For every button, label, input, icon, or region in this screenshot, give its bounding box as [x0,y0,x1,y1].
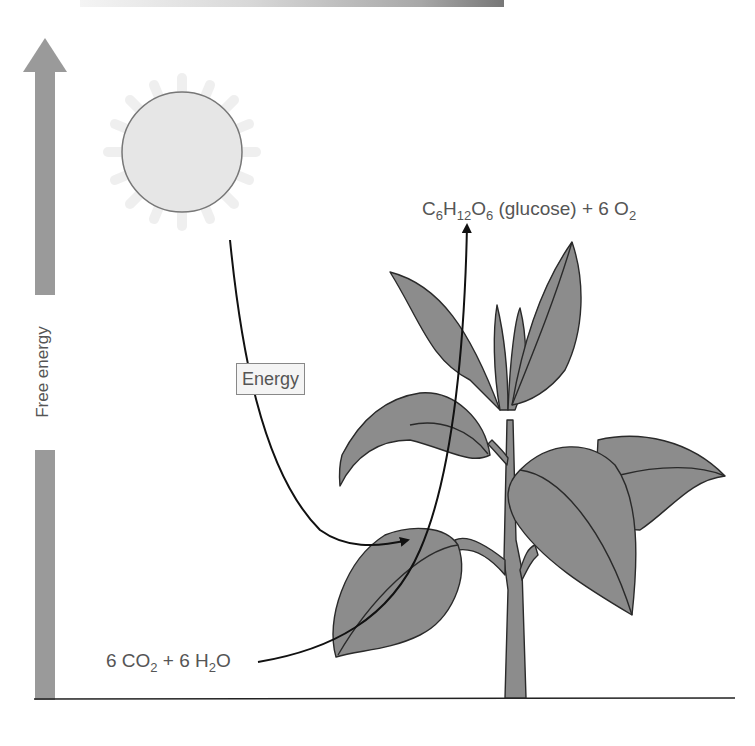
leaf-mid-left [340,393,491,486]
reactant-co2: 6 CO [106,650,150,671]
product-glucose-o2: (glucose) + 6 O [493,198,629,219]
product-h: H [443,198,457,219]
products-formula: C6H12O6 (glucose) + 6 O2 [422,198,636,220]
plant-illustration [333,242,725,698]
reactant-h2o: + 6 H [158,650,209,671]
lower-left-branch [455,538,505,575]
energy-label-box: Energy [236,363,305,395]
mid-left-branch [488,440,508,465]
diagram-canvas [0,0,755,746]
leaf-lower-left [333,528,462,657]
product-c: C [422,198,436,219]
subscript: 2 [629,208,636,223]
leaf-top-left [390,272,500,410]
product-o: O [471,198,486,219]
ground-line [34,698,735,699]
sun-icon [108,78,256,226]
reactants-formula: 6 CO2 + 6 H2O [106,650,231,672]
subscript: 6 [436,208,443,223]
subscript: 2 [150,660,157,675]
free-energy-axis-label: Free energy [33,326,53,418]
reactant-o: O [216,650,231,671]
subscript: 12 [457,208,471,223]
bud-left [494,305,508,410]
subscript: 2 [209,660,216,675]
energy-label: Energy [242,369,299,390]
lower-right-branch [520,545,538,580]
